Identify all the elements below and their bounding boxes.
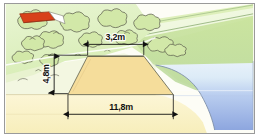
dimension-crest-width: 3,2m 3,2m xyxy=(88,32,144,55)
dimension-annotations: 3,2m 3,2m 4,8m 4,8m xyxy=(5,4,254,133)
illustration-canvas: 3,2m 3,2m 4,8m 4,8m xyxy=(0,0,260,138)
crest-width-label: 3,2m xyxy=(106,32,126,42)
dimension-base-width: 11,8m 11,8m xyxy=(68,95,173,120)
dimension-height: 4,8m 4,8m xyxy=(41,55,87,93)
base-width-label: 11,8m xyxy=(109,102,133,112)
height-label: 4,8m xyxy=(41,64,51,84)
image-frame: 3,2m 3,2m 4,8m 4,8m xyxy=(4,3,255,134)
